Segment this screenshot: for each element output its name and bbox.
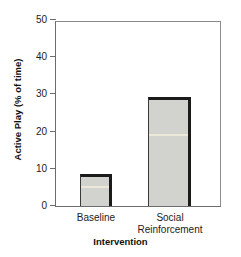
chart-figure: Active Play (% of time) 01020304050Basel… bbox=[0, 0, 241, 257]
y-axis-tick: 10 bbox=[50, 168, 56, 169]
y-axis-tick-label: 0 bbox=[41, 199, 47, 212]
x-axis-title: Intervention bbox=[0, 236, 241, 247]
y-axis-tick-label: 30 bbox=[36, 87, 47, 100]
y-axis-tick: 40 bbox=[50, 56, 56, 57]
y-axis-tick-label: 40 bbox=[36, 50, 47, 63]
y-axis-tick-label: 10 bbox=[36, 162, 47, 175]
y-axis-tick: 50 bbox=[50, 19, 56, 20]
y-axis-tick-label: 50 bbox=[36, 13, 47, 26]
plot-area: 01020304050BaselineSocial Reinforcement bbox=[55, 21, 221, 207]
bar bbox=[148, 97, 191, 206]
bar bbox=[80, 174, 112, 206]
y-axis-tick-label: 20 bbox=[36, 125, 47, 138]
y-axis-tick: 0 bbox=[50, 205, 56, 206]
x-axis-tick-label: Social Reinforcement bbox=[128, 212, 212, 236]
y-axis-title: Active Play (% of time) bbox=[12, 25, 23, 195]
x-axis-tick-label: Baseline bbox=[66, 212, 126, 224]
y-axis-tick: 20 bbox=[50, 131, 56, 132]
y-axis-tick: 30 bbox=[50, 93, 56, 94]
